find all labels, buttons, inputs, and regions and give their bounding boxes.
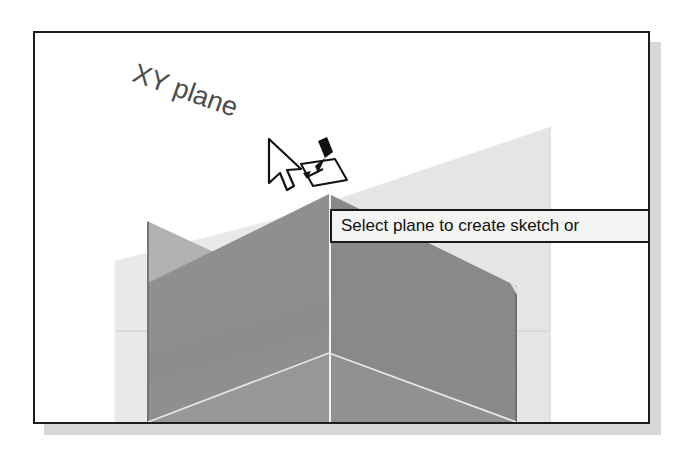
tooltip: Select plane to create sketch or: [330, 209, 650, 243]
cad-3d-viewport[interactable]: XY plane Select plane to create sketch o…: [33, 31, 650, 424]
screenshot-root: XY plane Select plane to create sketch o…: [0, 0, 694, 450]
tooltip-text: Select plane to create sketch or: [341, 216, 579, 236]
